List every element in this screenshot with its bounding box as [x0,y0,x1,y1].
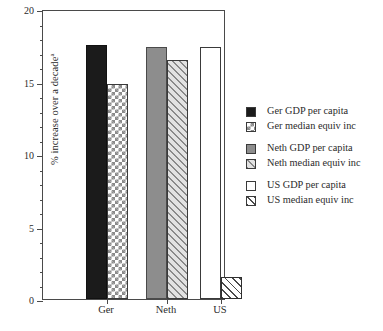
y-tick-label: 15 [24,79,34,89]
y-tick-label: 10 [24,151,34,161]
bar [146,47,167,299]
bar [86,45,107,299]
legend-item[interactable]: Ger median equiv inc [246,119,382,134]
legend-item-label: Neth median equiv inc [267,158,361,168]
legend-item-label: Ger GDP per capita [267,106,348,116]
legend-group: Neth GDP per capitaNeth median equiv inc [246,141,382,171]
x-axis-label-neth: Neth [156,304,176,315]
y-tick-label: 20 [24,6,34,16]
legend-swatch-icon [246,196,256,206]
legend-swatch-icon [246,159,256,169]
x-axis-label-us: US [213,304,226,315]
bar [221,277,242,299]
legend-swatch-icon [246,144,256,154]
legend-item[interactable]: Neth GDP per capita [246,141,382,156]
legend-item[interactable]: US GDP per capita [246,178,382,193]
legend-item-label: Ger median equiv inc [267,121,356,131]
y-tick-major [37,301,43,302]
bar [200,47,221,299]
y-tick-label: 5 [29,224,34,234]
legend-item[interactable]: US median equiv inc [246,193,382,208]
chart-legend: Ger GDP per capitaGer median equiv incNe… [246,104,382,208]
bar-chart-figure: % increase over a decadea 05101520 GerNe… [0,0,383,331]
legend-item-label: Neth GDP per capita [267,143,353,153]
legend-swatch-icon [246,122,256,132]
legend-item[interactable]: Ger GDP per capita [246,104,382,119]
legend-item-label: US median equiv inc [267,195,354,205]
legend-group: Ger GDP per capitaGer median equiv inc [246,104,382,134]
legend-item[interactable]: Neth median equiv inc [246,156,382,171]
legend-swatch-icon [246,181,256,191]
bar [107,84,128,299]
x-axis-label-ger: Ger [98,304,114,315]
legend-swatch-icon [246,107,256,117]
plot-area: % increase over a decadea 05101520 [42,10,225,300]
bars-layer [43,11,224,299]
legend-item-label: US GDP per capita [267,180,346,190]
y-tick-label: 0 [29,296,34,306]
legend-group: US GDP per capitaUS median equiv inc [246,178,382,208]
bar [167,60,188,299]
